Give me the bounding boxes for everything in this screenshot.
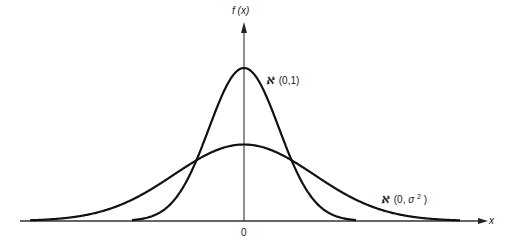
- y-axis-arrow-icon: [241, 22, 247, 33]
- wide-curve-label: ℵ (0, σ 2 ): [381, 190, 427, 205]
- narrow-curve-label: ℵ (0,1): [266, 75, 299, 86]
- normal-distribution-chart: f (x) x 0 ℵ (0,1) ℵ (0, σ 2 ): [0, 0, 514, 246]
- wide-curve-params-prefix: (0,: [394, 194, 406, 205]
- exponent: 2: [417, 193, 421, 200]
- x-axis-arrow-icon: [478, 218, 488, 224]
- x-axis-label: x: [488, 215, 495, 226]
- y-axis-label: f (x): [232, 5, 249, 16]
- origin-tick-label: 0: [241, 227, 247, 238]
- script-n-symbol: ℵ: [381, 194, 390, 205]
- sigma-symbol: σ: [408, 194, 415, 205]
- wide-curve-params-suffix: ): [424, 194, 427, 205]
- curve-normal-sigma: [30, 145, 460, 221]
- script-n-symbol: ℵ: [266, 75, 275, 86]
- narrow-curve-params: (0,1): [279, 75, 300, 86]
